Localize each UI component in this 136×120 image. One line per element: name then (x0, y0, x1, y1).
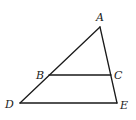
geometry-diagram: A B C D E (0, 0, 136, 120)
label-C: C (114, 69, 123, 82)
segment-AE (100, 27, 117, 103)
label-D: D (4, 98, 14, 111)
label-A: A (95, 11, 104, 24)
label-B: B (35, 69, 44, 82)
label-E: E (119, 99, 128, 112)
segment-AD (20, 27, 100, 103)
